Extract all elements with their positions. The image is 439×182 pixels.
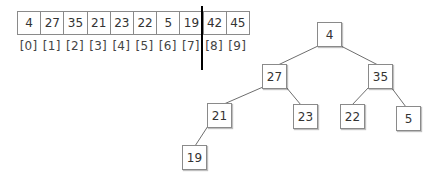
- edge-21-19: [195, 126, 208, 146]
- tree-node-root: 4: [317, 22, 342, 47]
- edge-27-21: [224, 87, 263, 104]
- tree-edges: [0, 0, 439, 182]
- tree-node-left: 27: [262, 64, 287, 89]
- edge-4-35: [341, 46, 378, 65]
- tree-node-left-right: 23: [293, 104, 318, 129]
- tree-node-right-left: 22: [340, 104, 365, 129]
- edge-4-27: [278, 46, 318, 65]
- edge-35-22: [352, 87, 369, 105]
- tree-node-left-left: 21: [207, 103, 232, 128]
- tree-node-right-right: 5: [396, 106, 421, 131]
- edge-35-5: [391, 87, 406, 107]
- tree-node-left-left-left: 19: [182, 145, 207, 170]
- tree-node-right: 35: [368, 64, 393, 89]
- edge-27-23: [286, 87, 301, 105]
